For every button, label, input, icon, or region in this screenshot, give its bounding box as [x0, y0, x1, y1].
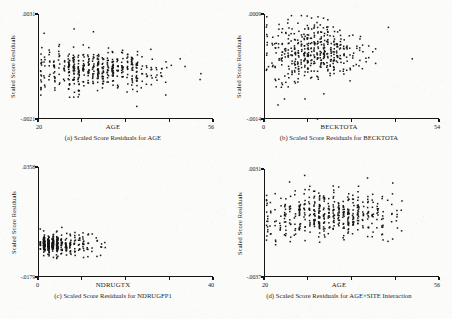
panel-a: Scaled Score Residuals .0031 -.0021 20 5…	[0, 0, 226, 159]
panel-a-plot-area	[38, 14, 213, 119]
panel-grid: Scaled Score Residuals .0031 -.0021 20 5…	[0, 0, 452, 319]
panel-a-x-tick-mark	[169, 119, 170, 122]
panel-d-y-tick-mark	[261, 168, 264, 169]
panel-a-x-tick-mark	[37, 119, 38, 122]
panel-a-caption: (a) Scaled Score Residuals for AGE	[0, 134, 226, 141]
panel-a-x-tick-mark	[81, 119, 82, 122]
panel-c-x-axis-title: NDRUGTX	[0, 281, 226, 288]
panel-d-y-tick-bottom: -.0037	[236, 274, 261, 280]
figure-page: Scaled Score Residuals .0031 -.0021 20 5…	[0, 0, 452, 319]
panel-a-x-tick-mark	[212, 119, 213, 122]
panel-b-x-tick-mark	[438, 119, 439, 122]
panel-c-x-tick-mark	[81, 277, 82, 280]
panel-a-x-tick-mark	[125, 119, 126, 122]
panel-d-y-tick-top: .0031	[236, 166, 261, 172]
panel-c-x-tick-mark	[125, 277, 126, 280]
panel-b-plot-area	[264, 14, 439, 119]
panel-d-x-tick-mark	[438, 277, 439, 280]
panel-a-y-tick-top: .0031	[10, 11, 35, 17]
panel-a-y-tick-mark	[35, 13, 38, 14]
panel-b-x-axis-title: BECKTOTA	[226, 123, 452, 130]
panel-b-x-tick-mark	[351, 119, 352, 122]
panel-d-x-axis-title: AGE	[226, 281, 452, 288]
panel-a-y-axis-title: Scaled Score Residuals	[8, 14, 17, 119]
panel-d-scatter-points	[265, 169, 440, 277]
panel-b-y-axis-title: Scaled Score Residuals	[234, 14, 243, 119]
panel-b-x-tick-mark	[395, 119, 396, 122]
panel-b-x-tick-mark	[307, 119, 308, 122]
panel-a-y-tick-bottom: -.0021	[10, 116, 35, 122]
panel-d-x-tick-mark	[307, 277, 308, 280]
panel-d-x-tick-mark	[395, 277, 396, 280]
panel-c-x-tick-mark	[212, 277, 213, 280]
panel-b-caption: (b) Scaled Score Residuals for BECKTOTA	[226, 134, 452, 141]
panel-d-y-axis-title: Scaled Score Residuals	[234, 169, 243, 277]
panel-c: Scaled Score Residuals .0358 -.0179 0 40…	[0, 159, 226, 319]
panel-c-y-tick-mark	[35, 166, 38, 167]
panel-a-scatter-points	[39, 14, 214, 119]
panel-d-caption: (d) Scaled Score Residuals for AGE×SITE …	[226, 292, 452, 299]
panel-b-y-tick-bottom: -.0014	[236, 116, 261, 122]
panel-d-plot-area	[264, 169, 439, 277]
panel-c-y-tick-top: .0358	[10, 164, 35, 170]
panel-b: Scaled Score Residuals .0009 -.0014 0 54…	[226, 0, 452, 159]
panel-d-x-tick-mark	[263, 277, 264, 280]
panel-c-plot-area	[38, 167, 213, 277]
panel-c-x-tick-mark	[37, 277, 38, 280]
panel-b-scatter-points	[265, 14, 440, 119]
panel-c-y-axis-title: Scaled Score Residuals	[8, 167, 17, 277]
panel-a-x-axis-title: AGE	[0, 123, 226, 130]
panel-b-y-tick-top: .0009	[236, 11, 261, 17]
panel-b-x-tick-mark	[263, 119, 264, 122]
panel-c-y-tick-bottom: -.0179	[10, 274, 35, 280]
panel-c-caption: (c) Scaled Score Residuals for NDRUGFP1	[0, 292, 226, 299]
panel-c-x-tick-mark	[169, 277, 170, 280]
panel-b-y-tick-mark	[261, 13, 264, 14]
panel-d-x-tick-mark	[351, 277, 352, 280]
panel-d: Scaled Score Residuals .0031 -.0037 20 5…	[226, 159, 452, 319]
panel-c-scatter-points	[39, 167, 214, 277]
